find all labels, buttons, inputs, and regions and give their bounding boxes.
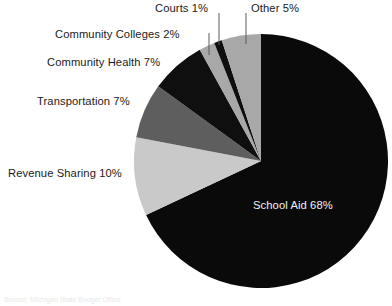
pie-chart-figure: Courts 1% Other 5% Community Colleges 2%… (0, 0, 392, 306)
pie-label-revenue-sharing: Revenue Sharing 10% (8, 167, 122, 180)
chart-caption: Source: Michigan State Budget Office (4, 296, 121, 303)
pie-label-other: Other 5% (251, 2, 299, 15)
pie-label-school-aid: School Aid 68% (253, 199, 333, 212)
pie-chart-canvas (0, 0, 392, 306)
pie-label-transportation: Transportation 7% (37, 95, 130, 108)
pie-label-courts: Courts 1% (155, 2, 208, 15)
pie-slices (134, 34, 388, 288)
pie-label-community-colleges: Community Colleges 2% (55, 28, 180, 41)
pie-label-community-health: Community Health 7% (47, 56, 160, 69)
